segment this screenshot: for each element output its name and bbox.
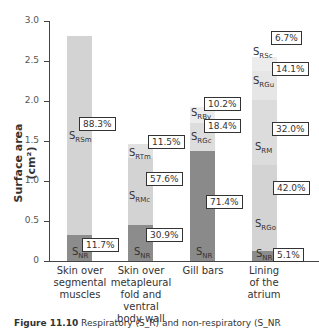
category-line: atrium <box>225 289 303 301</box>
segment-label-sub: NR <box>140 252 150 260</box>
y-tick <box>44 261 49 262</box>
category-line: of the <box>225 277 303 289</box>
segment-label-sub: RMc <box>135 196 150 204</box>
segment-label-sub: RSc <box>259 52 272 60</box>
percent-badge: 32.0% <box>272 122 309 136</box>
figure-caption: Figure 11.10 Respiratory (S_R) and non-r… <box>14 318 281 328</box>
segment-label-sub: RGo <box>261 224 276 232</box>
y-tick <box>44 101 49 102</box>
x-category-label: Lining of the atrium <box>225 265 303 301</box>
percent-badge: 5.1% <box>273 248 304 262</box>
percent-badge: 6.7% <box>271 31 302 45</box>
segment-label-sub: NR <box>262 254 272 262</box>
y-tick-label: 2.0 <box>17 95 39 105</box>
percent-badge: 30.9% <box>146 228 183 242</box>
percent-badge: 11.5% <box>148 135 185 149</box>
percent-badge: 57.6% <box>146 172 183 186</box>
y-tick <box>44 221 49 222</box>
percent-badge: 10.2% <box>204 97 241 111</box>
category-line: fold and ventral <box>102 289 180 313</box>
y-tick <box>44 21 49 22</box>
segment-label-sub: NR <box>78 252 88 260</box>
percent-badge: 42.0% <box>273 181 310 195</box>
segment-label-sub: RM <box>261 147 272 155</box>
figure-number: Figure 11.10 <box>14 318 78 328</box>
y-axis-line <box>49 21 50 262</box>
segment-label-sub: NR <box>202 252 212 260</box>
segment-rgo <box>252 165 277 251</box>
percent-badge: 71.4% <box>206 195 243 209</box>
segment-label-sub: RTm <box>135 153 150 161</box>
caption-text: Respiratory (S_R) and non-respiratory (S… <box>81 318 281 328</box>
segment-label-sub: RSm <box>75 136 91 144</box>
segment-label-sub: RGu <box>259 81 274 89</box>
percent-badge: 11.7% <box>82 238 119 252</box>
y-tick-label: 0 <box>17 255 39 265</box>
segment-label-sub: RGc <box>197 137 211 145</box>
y-tick-label: 0.5 <box>17 215 39 225</box>
y-tick-label: 1.5 <box>17 135 39 145</box>
y-tick <box>44 141 49 142</box>
y-tick <box>44 61 49 62</box>
category-line: Lining <box>225 265 303 277</box>
y-tick-label: 1.0 <box>17 175 39 185</box>
y-tick-label: 2.5 <box>17 55 39 65</box>
y-tick <box>44 181 49 182</box>
percent-badge: 18.4% <box>204 119 241 133</box>
y-tick-label: 3.0 <box>17 15 39 25</box>
percent-badge: 14.1% <box>272 62 309 76</box>
category-line: metapleural <box>102 277 180 289</box>
percent-badge: 88.3% <box>79 117 116 131</box>
y-axis-label: Surface area (cm²) <box>12 108 38 218</box>
